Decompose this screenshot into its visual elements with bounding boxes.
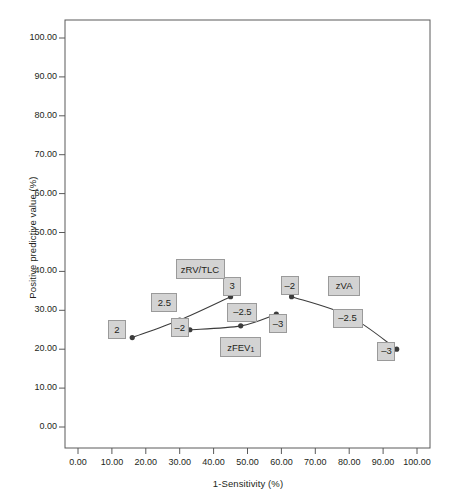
y-axis-tick-label: 100.00 <box>11 32 57 42</box>
series-name-label: zRV/TLC <box>176 259 225 279</box>
y-axis-tick-label: 90.00 <box>11 71 57 81</box>
x-axis-tick-label: 100.00 <box>395 457 439 467</box>
y-axis-tick-label: 50.00 <box>11 227 57 237</box>
series-name-label: zFEV1 <box>220 337 261 357</box>
data-point-label: –2.5 <box>333 309 363 328</box>
y-axis-tick-label: 70.00 <box>11 149 57 159</box>
data-point-label: –2 <box>171 318 189 337</box>
series-name-text: zFEV <box>227 343 250 353</box>
data-point-label: –2 <box>281 276 299 295</box>
data-point-label: 2.5 <box>151 293 177 312</box>
data-point-label: 3 <box>223 277 241 296</box>
data-point-label: –2.5 <box>227 303 257 322</box>
data-point-label: 2 <box>108 320 126 339</box>
series-name-label: zVA <box>328 276 360 296</box>
roc-style-scatter-figure: Positive predictive value (%) 1-Sensitiv… <box>0 0 449 503</box>
data-point-label: –3 <box>269 314 287 333</box>
y-axis-tick-label: 30.00 <box>11 304 57 314</box>
series-name-subscript: 1 <box>250 346 254 353</box>
y-axis-tick-label: 0.00 <box>11 421 57 431</box>
y-axis-tick-label: 40.00 <box>11 265 57 275</box>
y-axis-tick-label: 10.00 <box>11 382 57 392</box>
data-point-marker <box>130 335 135 340</box>
data-point-marker <box>238 323 243 328</box>
y-axis-tick-label: 60.00 <box>11 188 57 198</box>
y-axis-tick-label: 20.00 <box>11 343 57 353</box>
y-axis-tick-label: 80.00 <box>11 110 57 120</box>
data-point-label: –3 <box>377 342 395 361</box>
plot-frame <box>65 20 430 448</box>
plot-area <box>0 0 449 503</box>
